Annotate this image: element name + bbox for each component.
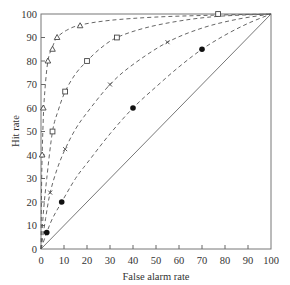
- dot-marker: [59, 199, 65, 205]
- x-tick-label: 50: [151, 255, 162, 266]
- triangle-marker: [54, 35, 60, 40]
- square-marker: [63, 89, 68, 94]
- dot-marker: [130, 105, 136, 111]
- y-tick-label: 40: [27, 150, 38, 161]
- roc-chart: 0102030405060708090100010203040506070809…: [0, 0, 290, 285]
- y-tick-label: 20: [27, 197, 38, 208]
- y-tick-label: 90: [27, 32, 38, 43]
- x-tick-label: 80: [220, 255, 231, 266]
- x-tick-label: 40: [128, 255, 139, 266]
- y-tick-label: 10: [27, 220, 38, 231]
- y-tick-label: 50: [27, 126, 38, 137]
- square-marker: [85, 59, 90, 64]
- x-tick-label: 30: [105, 255, 116, 266]
- y-axis-title: Hit rate: [10, 115, 21, 147]
- x-marker: [166, 40, 170, 44]
- x-tick-label: 0: [38, 255, 43, 266]
- y-tick-label: 70: [27, 79, 38, 90]
- triangle-marker: [50, 46, 56, 51]
- y-tick-label: 100: [21, 9, 37, 20]
- dot-marker: [44, 230, 50, 236]
- triangle-marker: [45, 58, 51, 63]
- x-tick-label: 10: [59, 255, 70, 266]
- square-marker: [50, 129, 55, 134]
- x-marker: [63, 147, 67, 151]
- data-markers: [39, 12, 220, 236]
- dot-marker: [199, 46, 205, 52]
- x-marker: [108, 83, 112, 87]
- x-axis-title: False alarm rate: [122, 271, 189, 282]
- x-tick-label: 70: [197, 255, 208, 266]
- roc-chart-svg: 0102030405060708090100010203040506070809…: [0, 0, 290, 285]
- y-tick-label: 60: [27, 103, 38, 114]
- y-tick-label: 80: [27, 56, 38, 67]
- y-tick-label: 0: [32, 244, 37, 255]
- x-tick-label: 20: [82, 255, 93, 266]
- x-tick-label: 100: [263, 255, 279, 266]
- y-tick-label: 30: [27, 173, 38, 184]
- x-tick-label: 90: [243, 255, 254, 266]
- square-marker: [115, 35, 120, 40]
- x-tick-label: 60: [174, 255, 185, 266]
- square-marker: [216, 12, 221, 17]
